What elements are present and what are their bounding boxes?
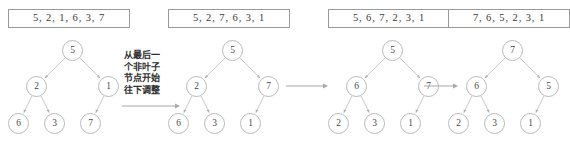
tree-edge: [485, 58, 505, 78]
tree-node-internal: 2: [26, 76, 47, 97]
array-values-text: 5, 6, 7, 2, 3, 1: [353, 13, 425, 24]
tree-node-root: 5: [382, 40, 403, 61]
heapify-annotation: 从最后一个非叶子节点开始往下调整: [124, 50, 172, 96]
heap-build-diagram: 5, 2, 1, 6, 3, 75216375, 2, 7, 6, 3, 152…: [0, 0, 570, 147]
tree-node-root: 7: [502, 40, 523, 61]
array-box: 5, 2, 1, 6, 3, 7: [8, 9, 130, 28]
heap-step-panel-1: 5, 2, 1, 6, 3, 7521637: [0, 0, 143, 147]
annotation-line: 节点开始: [124, 73, 172, 85]
tree-node-leaf: 6: [168, 113, 189, 134]
tree-node-leaf: 7: [80, 113, 101, 134]
array-values-text: 7, 6, 5, 2, 3, 1: [473, 13, 545, 24]
tree-edge: [400, 58, 420, 78]
tree-node-root: 5: [62, 40, 83, 61]
annotation-line: 从最后一: [124, 50, 172, 62]
binary-tree: 521637: [0, 32, 143, 147]
tree-node-internal: 7: [258, 76, 279, 97]
tree-node-internal: 1: [98, 76, 119, 97]
tree-edge: [520, 58, 540, 78]
tree-node-internal: 6: [346, 76, 367, 97]
array-box: 5, 2, 7, 6, 3, 1: [168, 9, 290, 28]
tree-node-internal: 5: [538, 76, 559, 97]
tree-node-internal: 6: [466, 76, 487, 97]
tree-node-leaf: 1: [520, 113, 541, 134]
tree-node-leaf: 2: [448, 113, 469, 134]
arrow-2-3: [286, 81, 328, 91]
annotation-line: 往下调整: [124, 85, 172, 97]
tree-node-leaf: 3: [484, 113, 505, 134]
tree-node-leaf: 1: [400, 113, 421, 134]
tree-node-leaf: 3: [44, 113, 65, 134]
tree-node-internal: 2: [186, 76, 207, 97]
heap-step-panel-2: 5, 2, 7, 6, 3, 1527631: [160, 0, 303, 147]
binary-tree: 527631: [160, 32, 303, 147]
tree-node-leaf: 6: [8, 113, 29, 134]
tree-edge: [80, 58, 100, 78]
tree-edge: [205, 58, 225, 78]
tree-node-leaf: 1: [240, 113, 261, 134]
tree-node-leaf: 3: [204, 113, 225, 134]
array-values-text: 5, 2, 1, 6, 3, 7: [33, 13, 105, 24]
heap-step-panel-4: 7, 6, 5, 2, 3, 1765231: [440, 0, 570, 147]
tree-node-root: 5: [222, 40, 243, 61]
annotation-line: 个非叶子: [124, 62, 172, 74]
array-box: 5, 6, 7, 2, 3, 1: [328, 9, 450, 28]
tree-edge: [240, 58, 260, 78]
array-box: 7, 6, 5, 2, 3, 1: [448, 9, 570, 28]
array-values-text: 5, 2, 7, 6, 3, 1: [193, 13, 265, 24]
tree-edge: [365, 58, 385, 78]
tree-node-leaf: 2: [328, 113, 349, 134]
tree-node-leaf: 3: [364, 113, 385, 134]
arrow-3-4: [424, 81, 458, 91]
binary-tree: 765231: [440, 32, 570, 147]
tree-edge: [45, 58, 65, 78]
arrow-1-2: [122, 101, 180, 111]
